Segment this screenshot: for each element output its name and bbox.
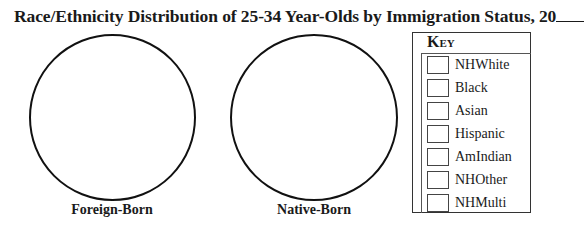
native-born-label: Native-Born xyxy=(277,202,351,218)
year-blank[interactable] xyxy=(556,7,584,22)
key-item-nhwhite: NHWhite xyxy=(427,55,509,75)
chart-title-text: Race/Ethnicity Distribution of 25-34 Yea… xyxy=(14,6,556,26)
key-item-amindian: AmIndian xyxy=(427,147,512,167)
color-swatch[interactable] xyxy=(427,194,449,212)
key-item-nhmulti: NHMulti xyxy=(427,193,506,213)
key-label: AmIndian xyxy=(455,149,512,165)
color-swatch[interactable] xyxy=(427,56,449,74)
native-born-pie xyxy=(230,34,398,201)
key-label: NHWhite xyxy=(455,57,509,73)
color-swatch[interactable] xyxy=(427,102,449,120)
color-swatch[interactable] xyxy=(427,125,449,143)
foreign-born-pie xyxy=(29,34,196,201)
foreign-born-label: Foreign-Born xyxy=(71,202,152,218)
key-label: Hispanic xyxy=(455,126,505,142)
key-item-black: Black xyxy=(427,78,488,98)
key-item-asian: Asian xyxy=(427,101,488,121)
color-swatch[interactable] xyxy=(427,148,449,166)
chart-title: Race/Ethnicity Distribution of 25-34 Yea… xyxy=(14,6,584,27)
key-label: Asian xyxy=(455,103,488,119)
key-label: NHOther xyxy=(455,172,507,188)
key-title: Key xyxy=(427,33,455,51)
key-item-hispanic: Hispanic xyxy=(427,124,505,144)
color-swatch[interactable] xyxy=(427,171,449,189)
color-swatch[interactable] xyxy=(427,79,449,97)
key-item-nhother: NHOther xyxy=(427,170,507,190)
key-label: Black xyxy=(455,80,488,96)
key-label: NHMulti xyxy=(455,195,506,211)
